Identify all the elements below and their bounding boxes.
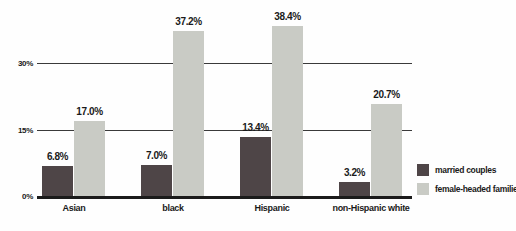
legend-label-female-headed-families: female-headed families (435, 184, 516, 194)
value-label-married-couples-non-hispanic-white: 3.2% (325, 167, 385, 178)
legend-item-married-couples: married couples (417, 164, 496, 176)
legend-label-married-couples: married couples (435, 165, 496, 175)
bar-married-couples-black (141, 165, 172, 196)
bar-female-headed-families-hispanic (272, 26, 303, 196)
bar-married-couples-asian (42, 166, 73, 196)
legend-swatch-married-couples (417, 164, 429, 176)
value-label-female-headed-families-non-hispanic-white: 20.7% (357, 89, 417, 100)
value-label-female-headed-families-asian: 17.0% (60, 106, 120, 117)
value-label-married-couples-hispanic: 13.4% (226, 122, 286, 133)
bar-female-headed-families-black (173, 31, 204, 196)
grouped-bar-chart: 0%15%30% 6.8%7.0%13.4%3.2%17.0%37.2%38.4… (0, 0, 516, 231)
legend-swatch-female-headed-families (417, 183, 429, 195)
x-axis-baseline (37, 196, 412, 199)
value-label-married-couples-black: 7.0% (127, 150, 187, 161)
value-label-married-couples-asian: 6.8% (28, 151, 88, 162)
bar-married-couples-non-hispanic-white (339, 182, 370, 196)
y-tick-label-30: 30% (3, 59, 33, 68)
bar-female-headed-families-non-hispanic-white (371, 104, 402, 196)
bar-married-couples-hispanic (240, 137, 271, 196)
y-tick-label-0: 0% (3, 192, 33, 201)
legend-item-female-headed-families: female-headed families (417, 183, 516, 195)
value-label-female-headed-families-black: 37.2% (159, 16, 219, 27)
gridline-30 (37, 63, 412, 64)
value-label-female-headed-families-hispanic: 38.4% (258, 11, 318, 22)
y-tick-label-15: 15% (3, 126, 33, 135)
category-label-non-hispanic-white: non-Hispanic white (306, 203, 436, 213)
